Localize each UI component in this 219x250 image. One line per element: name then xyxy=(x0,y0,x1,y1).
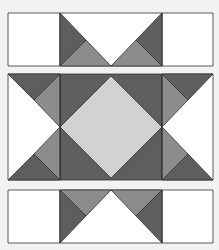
top-right-square xyxy=(162,13,213,66)
center-block xyxy=(8,74,213,180)
bottom-strip xyxy=(8,190,213,243)
bottom-right-square xyxy=(162,190,213,243)
quilt-block-diagram xyxy=(0,0,219,250)
top-strip xyxy=(8,13,213,66)
top-left-square xyxy=(8,13,60,66)
bottom-left-square xyxy=(8,190,60,243)
